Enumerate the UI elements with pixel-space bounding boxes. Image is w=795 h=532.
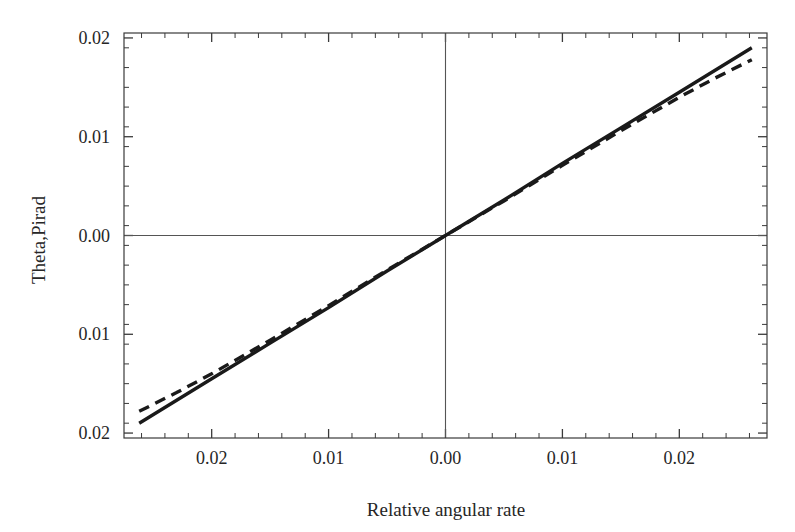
y-tick-label: 0.02 xyxy=(79,423,111,443)
x-axis-title: Relative angular rate xyxy=(367,499,525,520)
x-tick-label: 0.02 xyxy=(196,448,228,468)
x-tick-label: 0.01 xyxy=(547,448,579,468)
y-tick-label: 0.00 xyxy=(79,226,111,246)
y-tick-label: 0.01 xyxy=(79,127,111,147)
x-tick-label: 0.02 xyxy=(664,448,696,468)
x-tick-label: 0.00 xyxy=(430,448,462,468)
x-tick-label: 0.01 xyxy=(313,448,345,468)
y-tick-label: 0.02 xyxy=(79,28,111,48)
y-axis-title: Theta,Pirad xyxy=(28,195,49,284)
chart-figure: 0.020.010.000.010.02 0.020.010.000.010.0… xyxy=(0,0,795,532)
line-chart: 0.020.010.000.010.02 0.020.010.000.010.0… xyxy=(0,0,795,532)
y-tick-label: 0.01 xyxy=(79,324,111,344)
